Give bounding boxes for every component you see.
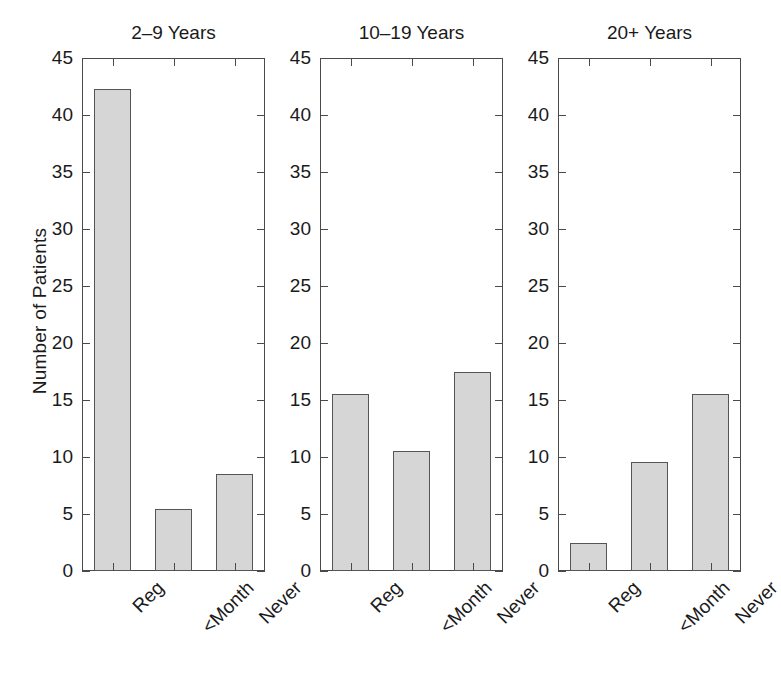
y-axis-tick-label: 5: [300, 503, 311, 525]
y-axis-tick-label: 15: [528, 389, 549, 411]
y-axis-tick: [320, 343, 328, 344]
panel-10-19-years: 10–19 Years 051015202530354045 Reg<Month…: [320, 58, 503, 571]
x-axis-tick: [650, 563, 651, 571]
y-axis-tick-label: 10: [528, 446, 549, 468]
y-axis-tick: [495, 343, 503, 344]
y-axis-tick: [733, 115, 741, 116]
y-axis-tick: [320, 172, 328, 173]
y-axis-tick: [320, 571, 328, 572]
y-axis-tick-label: 5: [538, 503, 549, 525]
bar: [216, 474, 254, 571]
y-axis-tick: [558, 229, 566, 230]
y-axis-tick: [558, 514, 566, 515]
x-axis-tick-label: <Month: [436, 577, 497, 638]
bar: [155, 509, 193, 571]
y-axis-tick: [558, 343, 566, 344]
y-axis-tick: [82, 115, 90, 116]
y-axis-tick: [82, 400, 90, 401]
y-axis-tick-label: 40: [290, 104, 311, 126]
y-axis-tick: [257, 172, 265, 173]
bar: [631, 462, 669, 571]
y-axis-tick-label: 15: [52, 389, 73, 411]
x-axis-tick-label: Never: [731, 577, 781, 628]
y-axis-tick-label: 20: [52, 332, 73, 354]
x-axis-tick: [174, 58, 175, 66]
y-axis-tick: [495, 571, 503, 572]
x-axis-tick-label: <Month: [674, 577, 735, 638]
y-axis-tick-label: 45: [52, 47, 73, 69]
y-axis-tick: [82, 172, 90, 173]
y-axis-tick: [82, 58, 90, 59]
x-axis-tick-label: <Month: [198, 577, 259, 638]
y-axis-tick: [257, 343, 265, 344]
y-axis-tick: [558, 457, 566, 458]
x-axis-tick-label: Reg: [128, 577, 168, 617]
x-axis-tick: [473, 563, 474, 571]
y-axis-tick-label: 30: [290, 218, 311, 240]
x-axis-tick: [235, 563, 236, 571]
y-axis-tick: [558, 571, 566, 572]
y-axis-tick: [733, 514, 741, 515]
y-axis-tick-label: 35: [528, 161, 549, 183]
panel-title: 10–19 Years: [320, 22, 503, 44]
x-axis-tick: [113, 563, 114, 571]
x-axis-tick: [711, 563, 712, 571]
y-axis-tick: [733, 286, 741, 287]
y-axis-tick: [495, 115, 503, 116]
y-axis-tick-label: 30: [528, 218, 549, 240]
y-axis-label: Number of Patients: [29, 201, 51, 421]
y-axis-tick: [257, 115, 265, 116]
bar: [94, 89, 132, 571]
y-axis-tick: [558, 286, 566, 287]
x-axis-tick: [174, 563, 175, 571]
y-axis-tick: [733, 172, 741, 173]
y-axis-tick: [558, 400, 566, 401]
y-axis-tick: [495, 229, 503, 230]
y-axis-tick: [733, 229, 741, 230]
x-axis-tick-label: Reg: [366, 577, 406, 617]
y-axis-tick: [320, 58, 328, 59]
y-axis-tick-label: 15: [290, 389, 311, 411]
y-axis-tick: [257, 229, 265, 230]
y-axis-tick-label: 20: [290, 332, 311, 354]
y-axis-tick: [257, 58, 265, 59]
y-axis-tick: [733, 457, 741, 458]
y-axis-tick-label: 35: [52, 161, 73, 183]
y-axis-tick-label: 40: [528, 104, 549, 126]
y-axis-tick: [495, 400, 503, 401]
y-axis-tick: [320, 400, 328, 401]
y-axis-tick-label: 35: [290, 161, 311, 183]
y-axis-tick: [558, 58, 566, 59]
y-axis-tick-label: 25: [290, 275, 311, 297]
y-axis-tick: [733, 58, 741, 59]
y-axis-tick-label: 45: [290, 47, 311, 69]
y-axis-tick-label: 10: [290, 446, 311, 468]
bar: [393, 451, 431, 571]
x-axis-tick: [711, 58, 712, 66]
y-axis-tick: [82, 571, 90, 572]
y-axis-tick: [320, 457, 328, 458]
panel-title: 2–9 Years: [82, 22, 265, 44]
x-axis-tick-label: Never: [255, 577, 306, 628]
y-axis-tick-label: 0: [538, 560, 549, 582]
bar: [692, 394, 730, 571]
y-axis-tick: [82, 514, 90, 515]
x-axis-tick-label: Reg: [604, 577, 644, 617]
y-axis-tick: [257, 286, 265, 287]
x-axis-tick-label: Never: [493, 577, 544, 628]
y-axis-tick: [82, 457, 90, 458]
y-axis-tick: [558, 115, 566, 116]
y-axis-tick-label: 20: [528, 332, 549, 354]
x-axis-tick: [412, 563, 413, 571]
y-axis-tick-label: 40: [52, 104, 73, 126]
y-axis-tick-label: 10: [52, 446, 73, 468]
x-axis-tick: [412, 58, 413, 66]
y-axis-tick: [320, 229, 328, 230]
y-axis-tick-label: 25: [528, 275, 549, 297]
y-axis-tick: [495, 172, 503, 173]
y-axis-tick: [257, 514, 265, 515]
x-axis-tick: [351, 58, 352, 66]
y-axis-tick: [733, 571, 741, 572]
y-axis-tick: [82, 229, 90, 230]
y-axis-tick: [495, 457, 503, 458]
